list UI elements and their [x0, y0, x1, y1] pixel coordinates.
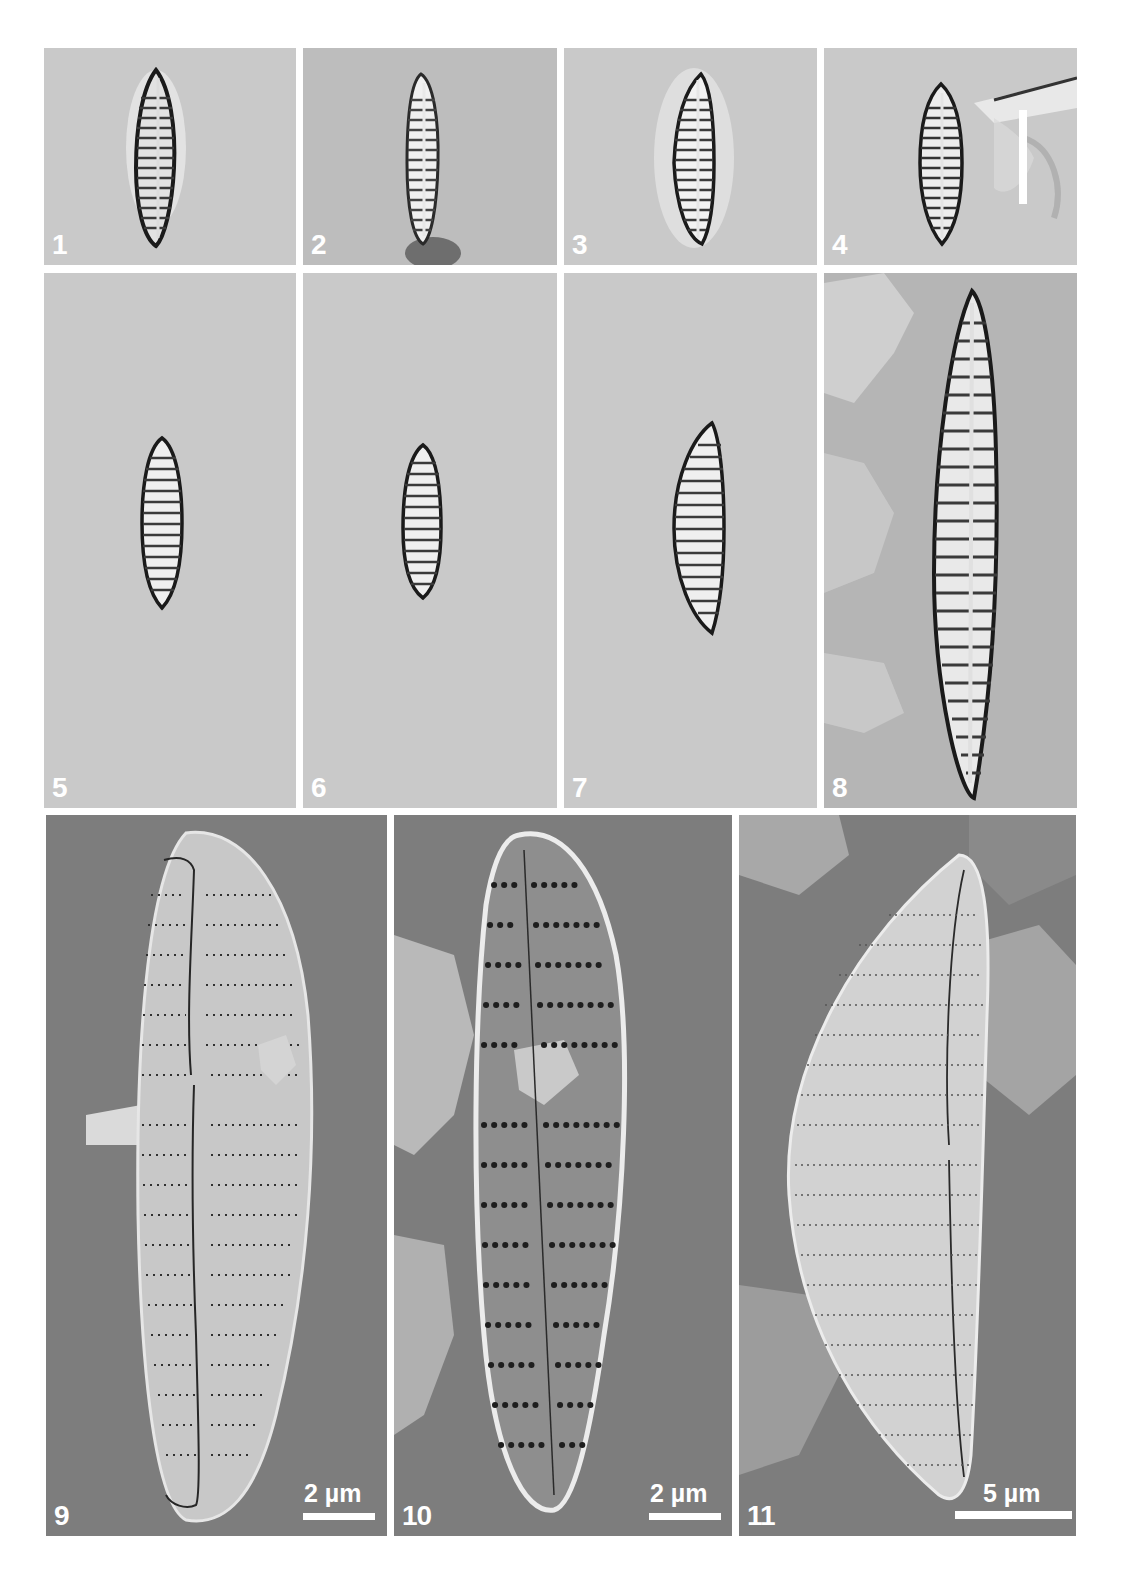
- panel-8: 8: [824, 273, 1077, 808]
- panel-label: 1: [52, 231, 67, 259]
- diatom-valve-image: [303, 273, 557, 808]
- diatom-valve-image: [824, 48, 1077, 265]
- diatom-valve-image: [44, 48, 296, 265]
- scale-bar: [303, 1513, 375, 1520]
- panel-7: 7: [564, 273, 817, 808]
- scale-bar: [649, 1513, 721, 1520]
- panel-label: 6: [311, 774, 326, 802]
- panel-label: 5: [52, 774, 67, 802]
- panel-6: 6: [303, 273, 557, 808]
- scale-bar-label: 5 µm: [983, 1481, 1040, 1506]
- panel-label: 9: [54, 1502, 69, 1530]
- scale-bar: [955, 1511, 1072, 1519]
- diatom-valve-image: [44, 273, 296, 808]
- panel-10: 2 µm 10: [394, 815, 732, 1536]
- scale-bar-label: 2 µm: [650, 1481, 707, 1506]
- panel-label: 7: [572, 774, 587, 802]
- scale-bar: [1019, 110, 1027, 204]
- panel-4: 4: [824, 48, 1077, 265]
- diatom-valve-image: [394, 815, 732, 1536]
- panel-2: 2: [303, 48, 557, 265]
- diatom-valve-image: [564, 273, 817, 808]
- panel-11: 5 µm 11: [739, 815, 1076, 1536]
- panel-5: 5: [44, 273, 296, 808]
- panel-label: 3: [572, 231, 587, 259]
- panel-label: 4: [832, 231, 847, 259]
- panel-label: 10: [402, 1502, 431, 1530]
- panel-3: 3: [564, 48, 817, 265]
- diatom-valve-image: [739, 815, 1076, 1536]
- diatom-valve-image: [824, 273, 1077, 808]
- panel-label: 11: [747, 1502, 775, 1530]
- diatom-valve-image: [46, 815, 387, 1536]
- panel-9: 2 µm 9: [46, 815, 387, 1536]
- diatom-valve-image: [564, 48, 817, 265]
- diatom-valve-image: [303, 48, 557, 265]
- panel-label: 2: [311, 231, 326, 259]
- panel-label: 8: [832, 774, 847, 802]
- panel-1: 1: [44, 48, 296, 265]
- scale-bar-label: 2 µm: [304, 1481, 361, 1506]
